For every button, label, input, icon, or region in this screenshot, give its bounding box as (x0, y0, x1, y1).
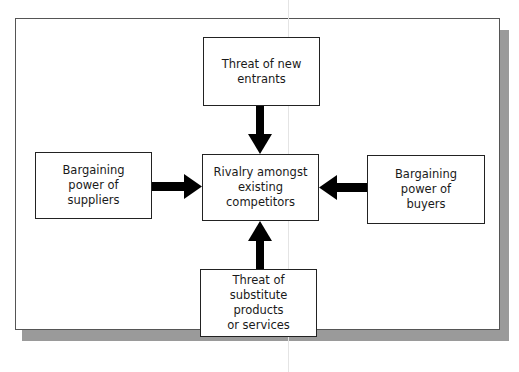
node-rivalry-amongst-existing-competitors: Rivalry amongst existing competitors (202, 154, 319, 221)
arrow-new-entrants-to-rivalry (248, 106, 272, 154)
node-bargaining-power-of-buyers: Bargaining power of buyers (367, 155, 485, 224)
node-label: Bargaining power of suppliers (62, 163, 124, 208)
node-label: Bargaining power of buyers (395, 167, 457, 212)
node-threat-of-new-entrants: Threat of new entrants (203, 37, 320, 106)
arrow-substitutes-to-rivalry (248, 221, 272, 269)
node-bargaining-power-of-suppliers: Bargaining power of suppliers (35, 152, 152, 219)
arrow-buyers-to-rivalry (319, 175, 367, 200)
node-label: Rivalry amongst existing competitors (214, 165, 308, 210)
node-threat-of-substitutes: Threat of substitute products or service… (200, 269, 317, 337)
node-label: Threat of substitute products or service… (205, 273, 312, 333)
arrow-suppliers-to-rivalry (152, 174, 202, 199)
node-label: Threat of new entrants (222, 57, 302, 87)
